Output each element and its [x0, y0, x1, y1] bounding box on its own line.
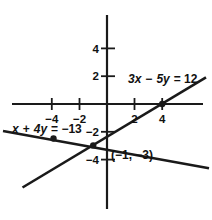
y-tick-label-pos4: 4 — [93, 43, 100, 55]
eq2-term-a: x — [11, 122, 20, 136]
intersection-point-label: (−1, −3) — [111, 148, 153, 162]
marked-point-intersection — [90, 142, 96, 148]
equation-label-line1: 3x−5y= 12 — [128, 72, 198, 86]
marked-point-4-0 — [159, 101, 165, 107]
eq1-rhs: = 12 — [174, 72, 198, 86]
coordinate-plane-figure: −4 −2 2 4 4 2 −2 −4 3x−5y= 12 x+4y= −13 … — [0, 0, 212, 220]
eq1-minus: − — [145, 72, 152, 86]
eq1-term-a: 3x — [128, 72, 143, 86]
y-tick-label-pos2: 2 — [93, 70, 99, 82]
eq2-term-b: 4y — [33, 122, 49, 136]
y-tick-label-neg2: −2 — [86, 126, 99, 138]
marked-point-neg5-neg2 — [50, 135, 56, 141]
x-tick-label-pos2: 2 — [131, 113, 137, 125]
eq2-rhs: = −13 — [51, 122, 82, 136]
graph-svg: −4 −2 2 4 4 2 −2 −4 3x−5y= 12 x+4y= −13 … — [0, 0, 212, 220]
eq1-term-b: 5y — [156, 72, 171, 86]
x-tick-label-pos4: 4 — [159, 113, 166, 125]
y-tick-label-neg4: −4 — [86, 154, 100, 166]
eq2-plus: + — [23, 122, 30, 136]
